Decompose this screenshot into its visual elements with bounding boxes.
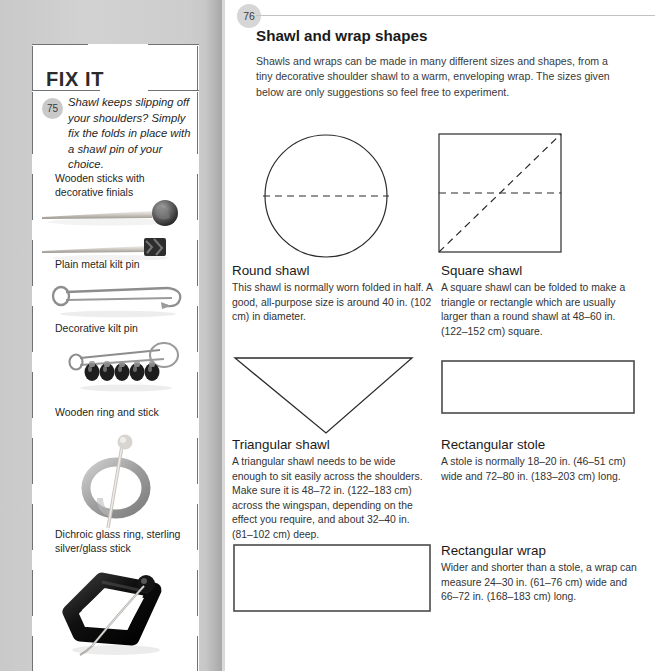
sidebar-item-label-wooden-sticks: Wooden sticks with decorative finials <box>55 172 195 199</box>
dichroic-glass-ring-photo <box>58 560 178 664</box>
tip-number-badge: 75 <box>42 98 63 119</box>
fix-it-frame-right-9 <box>197 570 198 616</box>
rectangular-stole-body: A stole is normally 18–20 in. (46–51 cm)… <box>441 455 641 484</box>
square-shawl-body: A square shawl can be folded to make a t… <box>441 281 641 339</box>
sidebar-item-label-dichroic-glass-ring: Dichroic glass ring, sterling silver/gla… <box>55 528 195 555</box>
fix-it-frame-right-3 <box>197 174 198 220</box>
rectangular-stole-diagram <box>441 360 637 416</box>
square-shawl-diagram <box>438 133 570 257</box>
fix-it-frame-top-right <box>148 44 199 45</box>
fix-it-frame-left-8 <box>32 504 33 550</box>
fix-it-frame-right-8 <box>197 504 198 550</box>
book-spread: FIX IT 75 Shawl keeps slipping off your … <box>0 0 661 671</box>
rectangular-wrap-diagram <box>233 544 433 614</box>
fix-it-frame-right-6 <box>197 372 198 418</box>
triangular-shawl-diagram <box>233 356 419 436</box>
square-shawl-title: Square shawl <box>441 263 522 278</box>
fix-it-frame-left-3 <box>32 174 33 220</box>
header-rule <box>256 15 655 16</box>
wooden-ring-stick-photo <box>76 428 166 536</box>
round-shawl-body: This shawl is normally worn folded in ha… <box>232 281 442 325</box>
fix-it-frame-right-5 <box>197 306 198 352</box>
fix-it-frame-right-1 <box>197 46 198 90</box>
fix-it-frame-left-7 <box>32 438 33 484</box>
fix-it-frame-left-10 <box>32 636 33 671</box>
triangular-shawl-title: Triangular shawl <box>232 437 330 452</box>
fix-it-frame-left-6 <box>32 372 33 418</box>
round-shawl-title: Round shawl <box>232 263 309 278</box>
page-title: Shawl and wrap shapes <box>256 27 427 44</box>
fix-it-frame-left-1 <box>32 46 33 90</box>
fix-it-heading: FIX IT <box>46 68 104 91</box>
fix-it-frame-right-10 <box>197 636 198 671</box>
page-gutter-shadow <box>205 0 225 671</box>
triangular-shawl-body: A triangular shawl needs to be wide enou… <box>232 455 432 543</box>
wooden-sticks-photo <box>40 196 192 264</box>
fix-it-frame-right-2 <box>197 92 198 154</box>
fix-it-frame-top-left <box>32 44 88 45</box>
rectangular-wrap-title: Rectangular wrap <box>441 543 546 558</box>
decorative-kilt-pin-photo <box>68 342 186 394</box>
sidebar-item-label-plain-kilt-pin: Plain metal kilt pin <box>55 258 195 272</box>
fix-it-frame-right-7 <box>197 438 198 484</box>
sidebar-item-label-decorative-kilt-pin: Decorative kilt pin <box>55 322 195 336</box>
fix-it-frame-left-5 <box>32 306 33 352</box>
rectangular-stole-title: Rectangular stole <box>441 437 545 452</box>
fix-it-frame-title-rule-right <box>148 90 199 91</box>
fix-it-frame-left-2 <box>32 92 33 154</box>
round-shawl-diagram <box>233 133 419 259</box>
page-number-badge: 76 <box>237 4 261 28</box>
fix-it-frame-left-4 <box>32 240 33 286</box>
plain-kilt-pin-photo <box>48 278 188 320</box>
fix-it-frame-left-9 <box>32 570 33 616</box>
fix-it-frame-right-4 <box>197 240 198 286</box>
sidebar-item-label-wooden-ring-stick: Wooden ring and stick <box>55 406 195 420</box>
tip-text: Shawl keeps slipping off your shoulders?… <box>68 95 192 173</box>
intro-paragraph: Shawls and wraps can be made in many dif… <box>256 54 612 100</box>
rectangular-wrap-body: Wider and shorter than a stole, a wrap c… <box>441 561 641 605</box>
